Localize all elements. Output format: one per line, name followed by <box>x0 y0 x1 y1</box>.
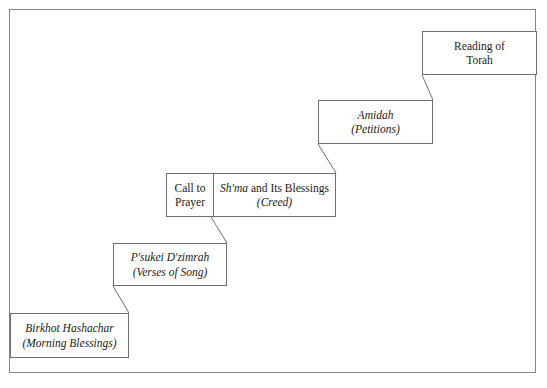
step-label-line-1: Amidah <box>358 108 394 122</box>
step-cell-amidah: Amidah (Petitions) <box>319 101 432 143</box>
step-cell-shma-creed: Sh'ma and Its Blessings (Creed) <box>214 174 335 216</box>
step-box-reading-of-torah: Reading of Torah <box>422 31 537 75</box>
step-label-line-1-italic-part: Sh'ma <box>220 182 248 194</box>
step-label-line-1: Reading of <box>454 39 505 53</box>
step-label-line-2: (Creed) <box>257 195 292 209</box>
step-label-line-1: Sh'ma and Its Blessings <box>220 181 329 195</box>
step-cell-psukei-dzimrah: P'sukei D'zimrah (Verses of Song) <box>114 244 226 285</box>
step-label-line-2: Torah <box>466 53 493 67</box>
step-label-line-2: Prayer <box>175 195 205 209</box>
step-box-birkhot-hashachar: Birkhot Hashachar (Morning Blessings) <box>10 313 129 358</box>
step-box-shma-and-its-blessings: Call to Prayer Sh'ma and Its Blessings (… <box>166 173 336 217</box>
step-box-psukei-dzimrah: P'sukei D'zimrah (Verses of Song) <box>113 243 227 286</box>
step-cell-reading-of-torah: Reading of Torah <box>423 32 536 74</box>
step-label-line-1-roman-part: and Its Blessings <box>248 182 329 194</box>
step-label-line-2: (Morning Blessings) <box>22 336 116 350</box>
step-label-line-1: Birkhot Hashachar <box>25 321 113 335</box>
step-label-line-1: P'sukei D'zimrah <box>131 250 210 264</box>
step-label-line-2: (Petitions) <box>351 122 400 136</box>
step-label-line-2: (Verses of Song) <box>133 265 208 279</box>
diagram-canvas: Birkhot Hashachar (Morning Blessings) P'… <box>0 0 547 388</box>
step-label-line-1: Call to <box>175 181 206 195</box>
step-box-amidah: Amidah (Petitions) <box>318 100 433 144</box>
step-cell-call-to-prayer: Call to Prayer <box>167 174 214 216</box>
step-cell-birkhot-hashachar: Birkhot Hashachar (Morning Blessings) <box>11 314 128 357</box>
